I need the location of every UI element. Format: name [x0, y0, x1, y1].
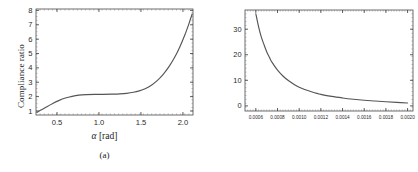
svg-text:2: 2 — [28, 92, 32, 101]
svg-text:1.5: 1.5 — [136, 118, 147, 127]
chart-panel-a: 0.51.01.52.012345678 Compliance ratio α … — [0, 0, 209, 172]
svg-text:5: 5 — [28, 49, 32, 58]
svg-text:30: 30 — [233, 25, 241, 34]
svg-text:10: 10 — [233, 76, 241, 85]
svg-text:8: 8 — [28, 6, 32, 15]
svg-text:0.0010: 0.0010 — [292, 115, 307, 120]
svg-text:20: 20 — [233, 50, 241, 59]
svg-text:0.5: 0.5 — [52, 118, 63, 127]
figure-container: 0.51.01.52.012345678 Compliance ratio α … — [0, 0, 418, 172]
svg-text:0.0008: 0.0008 — [270, 115, 285, 120]
svg-text:0.0014: 0.0014 — [335, 115, 350, 120]
svg-text:1: 1 — [28, 107, 32, 116]
svg-text:0.0006: 0.0006 — [249, 115, 264, 120]
chart-a-caption: (a) — [0, 150, 209, 160]
svg-text:4: 4 — [28, 63, 32, 72]
svg-text:0.0018: 0.0018 — [379, 115, 394, 120]
svg-text:0.0016: 0.0016 — [357, 115, 372, 120]
svg-text:2.0: 2.0 — [178, 118, 189, 127]
chart-a-x-unit: [rad] — [99, 131, 117, 141]
chart-b-plot: 0.00060.00080.00100.00120.00140.00160.00… — [209, 0, 418, 172]
svg-text:6: 6 — [28, 35, 32, 44]
chart-a-plot: 0.51.01.52.012345678 — [0, 0, 209, 172]
svg-text:7: 7 — [28, 20, 32, 29]
chart-a-y-axis-label: Compliance ratio — [16, 44, 26, 108]
svg-text:0.0012: 0.0012 — [314, 115, 329, 120]
data-curve — [37, 14, 192, 112]
svg-text:0: 0 — [237, 101, 241, 110]
svg-text:0.0020: 0.0020 — [400, 115, 415, 120]
data-curve — [256, 14, 408, 103]
chart-a-x-axis-label: α [rad] — [0, 131, 209, 141]
svg-text:1.0: 1.0 — [94, 118, 105, 127]
chart-panel-b: 0.00060.00080.00100.00120.00140.00160.00… — [209, 0, 418, 172]
svg-text:3: 3 — [28, 78, 32, 87]
